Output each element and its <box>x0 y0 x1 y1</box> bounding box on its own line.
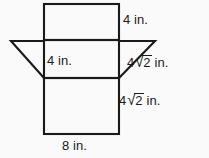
mid-right-radicand: 2 <box>134 93 143 107</box>
geometry-figure: 4 in. 4 in. 4 √2 in. 4 √2 in. 8 in. <box>0 0 209 158</box>
square-root-icon: √2 <box>134 54 151 69</box>
net-diagram-svg <box>0 0 209 158</box>
square-root-icon: √2 <box>126 92 143 107</box>
left-triangular-flap <box>11 41 44 78</box>
diagonal-unit: in. <box>155 56 169 69</box>
bottom-square-face <box>44 78 119 134</box>
label-top-right-edge: 4 in. <box>123 13 148 26</box>
diagonal-coefficient: 4 <box>127 56 134 69</box>
mid-right-coefficient: 4 <box>119 94 126 107</box>
label-mid-right-edge: 4 √2 in. <box>119 92 161 107</box>
mid-right-unit: in. <box>147 94 161 107</box>
label-interior-band: 4 in. <box>47 54 72 67</box>
diagonal-radicand: 2 <box>142 55 151 69</box>
label-bottom-edge: 8 in. <box>62 139 87 152</box>
label-diagonal-right: 4 √2 in. <box>127 54 169 69</box>
top-rectangle-face <box>44 4 119 40</box>
